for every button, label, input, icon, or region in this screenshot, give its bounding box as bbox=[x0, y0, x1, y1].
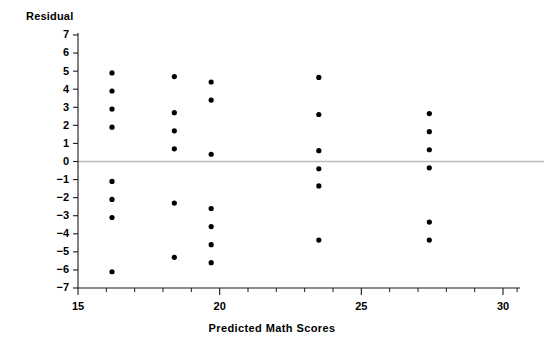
y-tick-label: 1 bbox=[63, 137, 69, 149]
data-point bbox=[172, 74, 177, 79]
x-axis-title: Predicted Math Scores bbox=[0, 322, 544, 334]
y-tick-label: −3 bbox=[56, 209, 69, 221]
y-tick-label: −4 bbox=[56, 227, 69, 239]
y-tick-label: 7 bbox=[63, 28, 69, 40]
data-point bbox=[209, 242, 214, 247]
data-point bbox=[172, 255, 177, 260]
data-point bbox=[209, 97, 214, 102]
data-points-layer bbox=[109, 70, 432, 274]
data-point bbox=[209, 224, 214, 229]
data-point bbox=[316, 112, 321, 117]
data-point bbox=[172, 146, 177, 151]
x-tick-label: 25 bbox=[355, 300, 367, 312]
data-point bbox=[109, 125, 114, 130]
data-point bbox=[427, 147, 432, 152]
data-point bbox=[316, 238, 321, 243]
y-tick-label: 2 bbox=[63, 119, 69, 131]
data-point bbox=[316, 75, 321, 80]
y-tick-label: 0 bbox=[63, 155, 69, 167]
data-point bbox=[109, 215, 114, 220]
data-point bbox=[427, 238, 432, 243]
data-point bbox=[427, 219, 432, 224]
x-tick-label: 30 bbox=[497, 300, 509, 312]
data-point bbox=[316, 183, 321, 188]
y-tick-label: −5 bbox=[56, 245, 69, 257]
data-point bbox=[427, 165, 432, 170]
data-point bbox=[109, 269, 114, 274]
x-axis: 15202530 bbox=[72, 288, 520, 312]
data-point bbox=[109, 88, 114, 93]
data-point bbox=[109, 197, 114, 202]
data-point bbox=[316, 166, 321, 171]
data-point bbox=[109, 70, 114, 75]
y-tick-label: −6 bbox=[56, 263, 69, 275]
y-tick-label: 5 bbox=[63, 65, 69, 77]
x-tick-label: 20 bbox=[214, 300, 226, 312]
data-point bbox=[209, 79, 214, 84]
y-tick-label: 6 bbox=[63, 46, 69, 58]
data-point bbox=[427, 111, 432, 116]
y-tick-label: −7 bbox=[56, 281, 69, 293]
data-point bbox=[209, 260, 214, 265]
x-tick-label: 15 bbox=[72, 300, 84, 312]
data-point bbox=[172, 128, 177, 133]
data-point bbox=[109, 106, 114, 111]
y-axis: 76543210−1−2−3−4−5−6−7 bbox=[56, 28, 78, 293]
data-point bbox=[316, 148, 321, 153]
y-tick-label: −2 bbox=[56, 191, 69, 203]
data-point bbox=[209, 206, 214, 211]
data-point bbox=[427, 129, 432, 134]
y-tick-label: −1 bbox=[56, 173, 69, 185]
y-tick-label: 3 bbox=[63, 101, 69, 113]
x-axis-title-word: Predicted Math Scores bbox=[209, 322, 336, 334]
data-point bbox=[172, 110, 177, 115]
data-point bbox=[209, 152, 214, 157]
data-point bbox=[109, 179, 114, 184]
plot-canvas: 76543210−1−2−3−4−5−6−7 15202530 bbox=[0, 0, 544, 351]
residual-scatter-plot: Residual 76543210−1−2−3−4−5−6−7 15202530… bbox=[0, 0, 544, 351]
data-point bbox=[172, 200, 177, 205]
y-tick-label: 4 bbox=[63, 83, 70, 95]
